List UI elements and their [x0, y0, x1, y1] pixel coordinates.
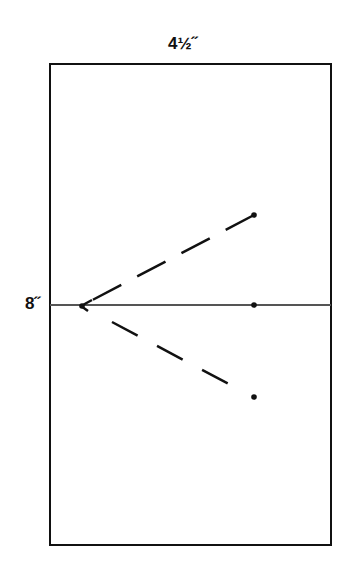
point-top — [251, 212, 257, 218]
origin-dot — [79, 303, 85, 309]
fold-diagram — [0, 0, 351, 574]
dashed-line-bottom — [112, 322, 240, 390]
dashed-line-top — [83, 215, 254, 305]
point-middle — [251, 302, 257, 308]
point-bottom — [251, 394, 257, 400]
